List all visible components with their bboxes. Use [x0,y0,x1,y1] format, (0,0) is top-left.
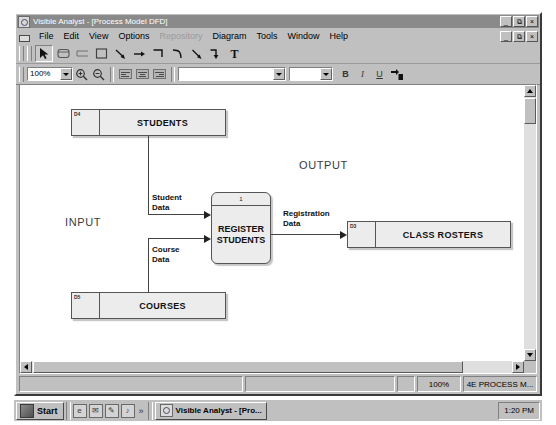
task-app-icon [160,404,173,417]
font-family-combo[interactable] [178,67,286,81]
system-tray-clock[interactable]: 1:20 PM [498,402,540,420]
flow-registration-data-label: Registration Data [283,209,330,229]
taskbar-task-label: Visible Analyst - [Pro... [176,406,262,415]
process-register-students-number: 1 [212,193,270,206]
status-indicator-pane [397,376,415,392]
quicklaunch-mail-icon[interactable]: ✉ [89,404,103,418]
connector-registration-data[interactable] [271,234,343,235]
font-size-combo[interactable] [289,67,333,81]
arrowhead-student-data [204,211,211,219]
diagonal-flow-tool[interactable] [111,45,129,62]
menu-item-tools[interactable]: Tools [251,30,282,43]
taskbar-separator-2 [148,402,153,420]
output-annotation: OUTPUT [299,159,348,171]
menu-item-edit[interactable]: Edit [59,30,85,43]
process-tool[interactable] [54,45,72,62]
connector-course-data-vertical[interactable] [148,238,149,293]
menu-item-help[interactable]: Help [325,30,354,43]
close-button[interactable]: × [526,16,538,27]
horizontal-scrollbar[interactable] [20,361,524,373]
zoom-level-chevron-down-icon[interactable] [60,68,72,80]
angled-flow-tool[interactable] [187,45,205,62]
quicklaunch-browser-icon[interactable]: e [73,404,87,418]
menu-item-view[interactable]: View [84,30,113,43]
start-button[interactable]: Start [16,402,64,420]
align-right-button[interactable] [151,66,168,82]
external-entity-tool[interactable] [92,45,110,62]
status-bar: 100% 4E PROCESS M... [19,376,537,392]
font-size-chevron-down-icon[interactable] [320,68,332,80]
align-left-icon [119,69,132,79]
connector-student-data-vertical[interactable] [148,136,149,214]
elbow-flow-tool[interactable] [149,45,167,62]
title-bar: Visible Analyst - [Process Model DFD] _ … [17,15,539,28]
font-family-chevron-down-icon[interactable] [273,68,285,80]
curve-flow-tool[interactable] [168,45,186,62]
data-store-courses[interactable]: D5 COURSES [71,292,226,319]
underline-button[interactable]: U [371,66,388,82]
quicklaunch-media-icon[interactable]: ♪ [121,404,135,418]
zoom-in-button[interactable] [73,66,90,82]
scroll-right-button[interactable] [512,361,524,373]
select-pointer-tool[interactable] [35,45,53,62]
straight-flow-tool[interactable] [130,45,148,62]
data-store-tool[interactable] [73,45,91,62]
toolbar-grip[interactable] [19,46,24,61]
align-center-icon [136,69,149,79]
scroll-down-button[interactable] [524,349,536,361]
quick-launch-bar: e ✉ ✎ ♪ » [73,404,146,418]
input-annotation: INPUT [65,216,101,228]
svg-text:T: T [230,48,238,60]
status-secondary-pane [245,376,395,392]
flow-student-data-label: Student Data [152,193,182,213]
toolbar-grip-2[interactable] [27,46,32,61]
vertical-scrollbar[interactable] [524,85,536,361]
arrowhead-registration-data [340,231,347,239]
bent-flow-tool[interactable] [206,45,224,62]
status-message-pane [19,376,243,392]
connector-course-data-horizontal[interactable] [148,238,206,239]
bold-button[interactable]: B [337,66,354,82]
document-minimize-button[interactable]: _ [500,31,512,42]
italic-button[interactable]: I [354,66,371,82]
restore-button[interactable]: ⧉ [513,16,525,27]
zoom-level-combo[interactable]: 100% [27,67,73,81]
process-register-students[interactable]: 1 REGISTER STUDENTS [211,192,271,264]
data-store-students[interactable]: D4 STUDENTS [71,109,226,136]
scroll-up-button[interactable] [524,85,536,97]
quick-launch-overflow-icon[interactable]: » [137,406,146,416]
menu-item-diagram[interactable]: Diagram [207,30,251,43]
scroll-left-button[interactable] [20,361,32,373]
document-restore-button[interactable]: ⧉ [513,31,525,42]
vertical-scrollbar-thumb[interactable] [524,98,536,124]
diagram-canvas[interactable]: INPUT OUTPUT D4 STUDENTS D5 COURSES D3 C… [20,85,524,361]
menu-item-repository: Repository [154,30,207,43]
align-center-button[interactable] [134,66,151,82]
data-store-students-label: STUDENTS [100,110,225,135]
repaint-button[interactable] [388,66,405,82]
data-store-class-rosters-label: CLASS ROSTERS [376,222,510,247]
minimize-button[interactable]: _ [500,16,512,27]
horizontal-scrollbar-thumb[interactable] [33,361,463,373]
connector-student-data-horizontal[interactable] [148,214,206,215]
process-register-students-label: REGISTER STUDENTS [212,206,270,263]
format-toolbar: 100% B I U [16,64,540,85]
diagram-content: INPUT OUTPUT D4 STUDENTS D5 COURSES D3 C… [21,86,523,360]
zoom-out-button[interactable] [90,66,107,82]
quicklaunch-editor-icon[interactable]: ✎ [105,404,119,418]
scrollbar-corner [524,361,536,373]
drawing-toolbar: T [16,44,540,64]
menu-item-options[interactable]: Options [113,30,154,43]
data-store-courses-label: COURSES [100,293,225,318]
menu-item-window[interactable]: Window [282,30,324,43]
arrowhead-course-data [204,235,211,243]
data-store-class-rosters[interactable]: D3 CLASS ROSTERS [347,221,511,248]
text-tool[interactable]: T [225,45,243,62]
menu-item-file[interactable]: File [34,30,59,43]
taskbar-task-visible-analyst[interactable]: Visible Analyst - [Pro... [155,402,267,420]
document-system-menu-icon[interactable] [18,31,30,43]
format-toolbar-grip[interactable] [19,67,24,82]
window-title: Visible Analyst - [Process Model DFD] [33,17,500,26]
document-close-button[interactable]: × [526,31,538,42]
align-left-button[interactable] [117,66,134,82]
